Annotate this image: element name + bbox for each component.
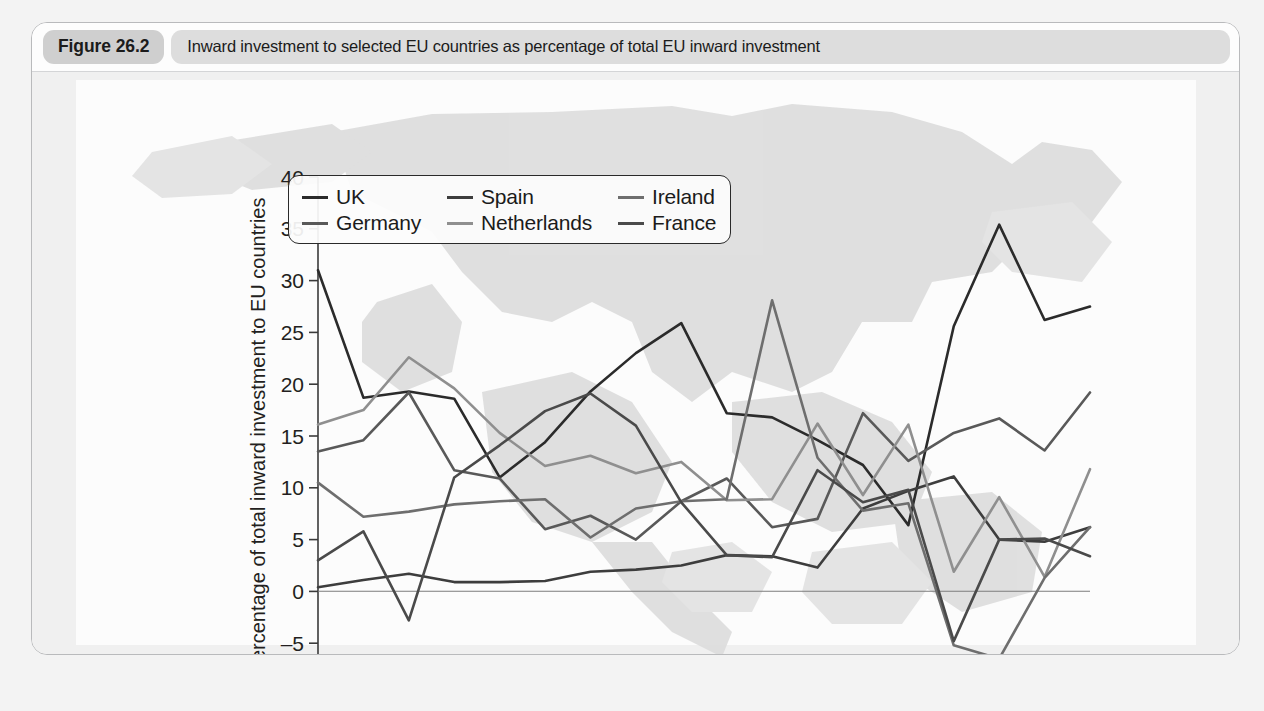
legend-item-netherlands[interactable]: Netherlands	[447, 211, 592, 235]
legend-swatch-icon	[302, 222, 328, 225]
legend-item-france[interactable]: France	[618, 211, 716, 235]
legend-label: Netherlands	[481, 211, 592, 235]
y-tick-label: 25	[281, 321, 304, 344]
legend-swatch-icon	[447, 222, 473, 225]
y-tick-label: 30	[281, 269, 304, 292]
legend-swatch-icon	[447, 196, 473, 199]
legend-swatch-icon	[618, 196, 644, 199]
y-tick-label: 10	[281, 476, 304, 499]
figure-page: Figure 26.2 Inward investment to selecte…	[0, 0, 1264, 711]
figure-number-badge: Figure 26.2	[43, 30, 164, 64]
line-chart: –10–50510152025303540 199019921994199619…	[32, 72, 1239, 655]
legend-item-uk[interactable]: UK	[302, 185, 421, 209]
legend-label: France	[652, 211, 716, 235]
y-tick-label: 0	[292, 580, 304, 603]
y-tick-label: 15	[281, 425, 304, 448]
figure-body: –10–50510152025303540 199019921994199619…	[32, 72, 1239, 655]
legend-swatch-icon	[618, 222, 644, 225]
y-tick-label: 5	[292, 528, 304, 551]
y-axis-ticks	[309, 177, 318, 655]
chart-legend: UKSpainIrelandGermanyNetherlandsFrance	[288, 175, 731, 244]
figure-card: Figure 26.2 Inward investment to selecte…	[31, 22, 1240, 655]
legend-label: Spain	[481, 185, 534, 209]
figure-caption: Inward investment to selected EU countri…	[171, 30, 1230, 64]
legend-label: Germany	[336, 211, 421, 235]
legend-swatch-icon	[302, 196, 328, 199]
legend-item-spain[interactable]: Spain	[447, 185, 592, 209]
legend-label: Ireland	[652, 185, 715, 209]
legend-item-ireland[interactable]: Ireland	[618, 185, 716, 209]
legend-item-germany[interactable]: Germany	[302, 211, 421, 235]
figure-header: Figure 26.2 Inward investment to selecte…	[32, 23, 1239, 72]
y-axis-title: Percentage of total inward investment to…	[247, 198, 269, 655]
y-tick-label: –5	[281, 632, 304, 655]
y-tick-label: 20	[281, 373, 304, 396]
legend-label: UK	[336, 185, 365, 209]
